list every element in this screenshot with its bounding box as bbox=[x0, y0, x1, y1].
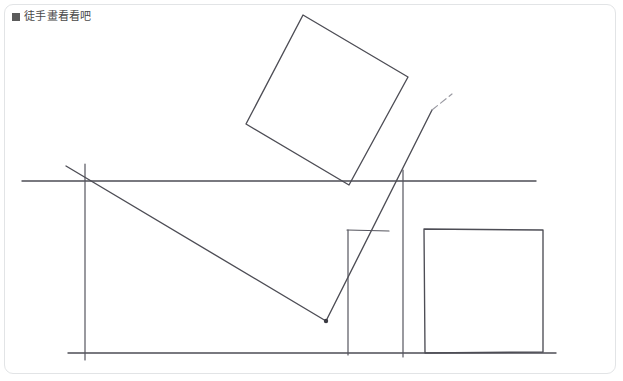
page-title: 徒手畫看看吧 bbox=[12, 11, 92, 22]
freehand-drawing-canvas[interactable] bbox=[0, 0, 623, 381]
rising-diagonal-line-shape bbox=[326, 110, 432, 321]
right-rectangle-shape bbox=[424, 229, 543, 353]
long-diagonal-line-shape bbox=[66, 166, 326, 321]
drawing-svg bbox=[0, 0, 623, 381]
rising-diagonal-faint-extension-shape bbox=[432, 94, 452, 110]
center-top-cap-line-shape bbox=[347, 230, 389, 231]
app-root: 徒手畫看看吧 bbox=[0, 0, 623, 381]
filled-square-bullet-icon bbox=[12, 13, 20, 21]
rotated-square-shape bbox=[246, 15, 408, 185]
page-title-label: 徒手畫看看吧 bbox=[24, 11, 92, 22]
diagonal-junction-vertex-dot bbox=[324, 319, 328, 323]
